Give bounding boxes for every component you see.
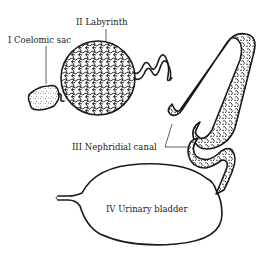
antennal-gland-diagram: I Coelomic sac II Labyrinth III Nephridi…: [0, 0, 270, 262]
label-coelomic-sac: I Coelomic sac: [8, 35, 71, 45]
labyrinth: [61, 29, 135, 115]
label-nephridial-canal: III Nephridial canal: [72, 142, 157, 152]
nephridial-canal: [165, 34, 255, 194]
label-labyrinth: II Labyrinth: [76, 17, 128, 27]
nephridial-canal-leader-line-2: [165, 124, 172, 147]
labyrinth-duct: [133, 55, 172, 81]
coelomic-sac: [28, 46, 64, 110]
label-urinary-bladder: IV Urinary bladder: [106, 204, 188, 214]
